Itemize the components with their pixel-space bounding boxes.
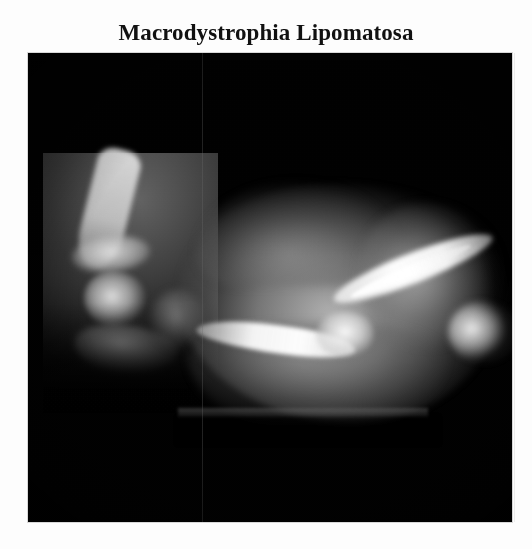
left-cassette-panel [43,153,218,388]
talus-body [84,271,146,327]
bony-apex-joint [316,311,374,357]
plate-edge-line [514,53,515,522]
tibia-metaphysis [70,232,151,276]
proximal-bony-ray [195,314,357,364]
calcaneus-bone [72,320,180,379]
soft-tissue-mass [178,183,508,423]
film-vignette-overlay [28,53,512,522]
soft-tissue-dorsal-hump [196,181,401,286]
tibia-shaft [72,144,144,271]
figure-title: Macrodystrophia Lipomatosa [0,18,532,48]
figure-root: Macrodystrophia Lipomatosa [0,0,532,549]
distal-bony-tip [448,301,512,363]
left-panel-fade [43,303,223,413]
soft-tissue-distal-lobe [358,203,503,348]
cassette-shadow-artifact [178,417,438,443]
distal-bony-ray [329,222,498,313]
radiograph-image [28,53,512,522]
soft-tissue-plantar-pad [188,323,448,433]
film-grain-overlay [28,53,512,522]
bony-cortex-highlight [349,240,473,302]
cassette-edge-artifact [178,408,428,417]
panel-splice-seam [202,53,203,522]
navicular-bone [150,289,204,351]
